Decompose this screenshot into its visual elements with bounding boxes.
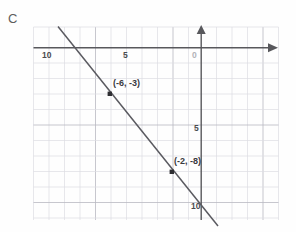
y-tick-label-5: 5 bbox=[194, 123, 199, 133]
grid-vertical-lines bbox=[34, 27, 279, 220]
x-tick-label-10: 10 bbox=[42, 50, 52, 60]
coordinate-plane-svg: 10 5 0 5 10 (-6, -3) (-2, -8) bbox=[0, 0, 296, 232]
data-point-marker-2 bbox=[170, 170, 174, 174]
data-point-label-1: (-6, -3) bbox=[113, 78, 140, 88]
x-tick-label-5: 5 bbox=[123, 50, 128, 60]
data-point-marker-1 bbox=[108, 92, 112, 96]
graph-figure: C bbox=[0, 0, 296, 232]
x-axis bbox=[34, 43, 279, 52]
grid-horizontal-lines bbox=[34, 27, 279, 218]
origin-label-0: 0 bbox=[192, 50, 197, 60]
data-point-label-2: (-2, -8) bbox=[174, 156, 201, 166]
